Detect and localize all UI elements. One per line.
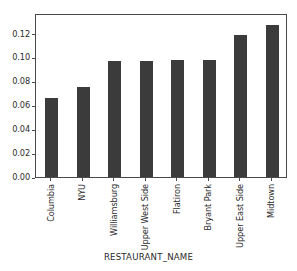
x-tick-mark [82, 178, 83, 181]
x-tick-label: Columbia [46, 184, 56, 222]
y-tick-mark [32, 34, 35, 35]
x-tick-label: NYU [77, 184, 87, 201]
bar [108, 61, 121, 177]
y-tick-label: 0.02 [12, 148, 30, 159]
y-tick-label: 0.12 [12, 29, 30, 40]
bar [45, 98, 58, 177]
y-tick-mark [32, 130, 35, 131]
y-tick-label: 0.06 [12, 100, 30, 111]
y-tick-mark [32, 82, 35, 83]
x-tick-label: Upper West Side [140, 184, 150, 250]
y-tick-label: 0.04 [12, 124, 30, 135]
x-tick-mark [113, 178, 114, 181]
plot-area [35, 14, 287, 178]
bar [77, 87, 90, 177]
y-tick-label: 0.10 [12, 52, 30, 63]
x-tick-mark [145, 178, 146, 181]
x-tick-mark [176, 178, 177, 181]
bar [140, 61, 153, 177]
x-tick-label: Flatiron [172, 184, 182, 214]
x-tick-mark [271, 178, 272, 181]
x-tick-mark [239, 178, 240, 181]
x-tick-label: Midtown [266, 184, 276, 218]
x-tick-mark [208, 178, 209, 181]
y-tick-mark [32, 178, 35, 179]
y-tick-label: 0.08 [12, 76, 30, 87]
y-tick-mark [32, 106, 35, 107]
x-tick-label: Williamsburg [109, 184, 119, 236]
y-tick-label: 0.00 [12, 172, 30, 183]
y-tick-mark [32, 58, 35, 59]
bar [203, 60, 216, 177]
bar [171, 60, 184, 177]
bar-chart-figure: 0.000.020.040.060.080.100.12 ColumbiaNYU… [0, 0, 297, 271]
y-tick-mark [32, 154, 35, 155]
bar [266, 25, 279, 177]
bars-layer [36, 15, 286, 177]
x-axis-title: RESTAURANT_NAME [0, 252, 297, 262]
x-tick-mark [50, 178, 51, 181]
x-tick-label: Bryant Park [203, 184, 213, 230]
bar [234, 35, 247, 177]
x-tick-label: Upper East Side [235, 184, 245, 248]
